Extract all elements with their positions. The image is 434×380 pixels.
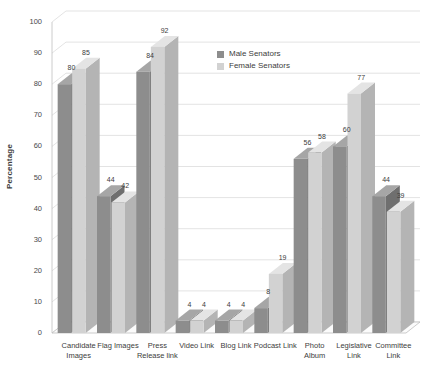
bar-value-label: 4 (241, 301, 245, 308)
bar-value-label: 80 (68, 64, 76, 71)
y-axis-tick-label: 10 (18, 298, 42, 306)
y-axis-title: Percentage (2, 0, 18, 333)
x-axis-category-label: Committee Link (366, 341, 420, 361)
y-axis-tick-label: 90 (18, 49, 42, 57)
bar-value-label: 85 (82, 49, 90, 56)
legend-item[interactable]: Female Senators (217, 60, 290, 72)
bar-value-label: 8 (266, 288, 270, 295)
bar-value-label: 4 (187, 301, 191, 308)
y-axis-tick-label: 70 (18, 112, 42, 120)
bar-value-label: 19 (279, 254, 287, 261)
y-axis-tick-label: 80 (18, 80, 42, 88)
y-axis-tick-labels: 0102030405060708090100 (18, 0, 42, 380)
legend-label: Male Senators (229, 48, 281, 60)
y-axis-tick-label: 30 (18, 236, 42, 244)
bar-value-label: 77 (357, 74, 365, 81)
x-axis-category-labels: Candidate ImagesFlag ImagesPress Release… (44, 341, 424, 379)
y-axis-tick-label: 60 (18, 143, 42, 151)
legend-item[interactable]: Male Senators (217, 48, 290, 60)
bar-value-label: 44 (107, 176, 115, 183)
legend-label: Female Senators (229, 60, 290, 72)
bar-value-label: 92 (161, 27, 169, 34)
bar-value-label: 84 (146, 52, 154, 59)
chart-legend: Male SenatorsFemale Senators (217, 48, 290, 73)
bar-value-label: 56 (304, 139, 312, 146)
bar-value-label: 58 (318, 133, 326, 140)
bar-value-label: 42 (121, 182, 129, 189)
bar-value-label: 39 (397, 192, 405, 199)
y-axis-tick-label: 0 (18, 329, 42, 337)
y-axis-title-text: Percentage (6, 144, 15, 189)
bar-value-label: 44 (382, 176, 390, 183)
bar-value-label: 4 (202, 301, 206, 308)
legend-color-swatch (217, 51, 224, 58)
y-axis-tick-label: 40 (18, 205, 42, 213)
legend-color-swatch (217, 63, 224, 70)
y-axis-tick-label: 20 (18, 267, 42, 275)
y-axis-tick-label: 50 (18, 174, 42, 182)
y-axis-tick-label: 100 (18, 18, 42, 26)
bar-value-label: 4 (227, 301, 231, 308)
bar-value-label: 60 (343, 126, 351, 133)
bar-chart: Percentage 0102030405060708090100 808544… (0, 0, 434, 380)
